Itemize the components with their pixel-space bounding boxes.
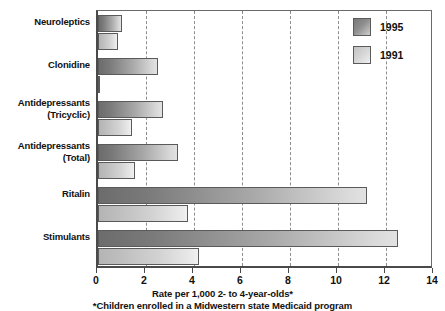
legend-item-1991[interactable]: 1991	[353, 44, 435, 66]
bar-1995[interactable]	[98, 58, 158, 75]
y-axis-label-line: (Total)	[0, 152, 90, 164]
legend-item-1995[interactable]: 1995	[353, 16, 435, 38]
x-axis-tick-mark	[432, 268, 433, 273]
bar-chart: Neuroleptics Clonidine Antidepressants (…	[0, 0, 445, 311]
x-axis-tick-mark	[144, 268, 145, 273]
chart-footnote: *Children enrolled in a Midwestern state…	[0, 300, 445, 311]
bar-1995[interactable]	[98, 144, 178, 161]
bar-1995[interactable]	[98, 230, 398, 247]
y-axis-label-line: (Tricyclic)	[0, 109, 90, 121]
y-axis-label-line: Neuroleptics	[0, 16, 90, 28]
bar-group	[98, 141, 431, 184]
bar-1995[interactable]	[98, 187, 367, 204]
x-axis-tick-label: 8	[273, 274, 303, 286]
y-axis-category-label-ritalin: Ritalin	[0, 188, 90, 200]
bar-1995[interactable]	[98, 15, 122, 32]
legend-swatch-1995-icon	[353, 18, 371, 36]
x-axis-tick-label: 6	[225, 274, 255, 286]
x-axis-tick-label: 4	[177, 274, 207, 286]
y-axis-label-line: Antidepressants	[0, 140, 90, 152]
legend-swatch-1991-icon	[353, 46, 371, 64]
bar-1991[interactable]	[98, 248, 199, 265]
bar-1991[interactable]	[98, 33, 118, 50]
x-axis-tick-label: 10	[321, 274, 351, 286]
x-axis-tick-mark	[336, 268, 337, 273]
x-axis-tick-mark	[240, 268, 241, 273]
x-axis-tick-label: 12	[369, 274, 399, 286]
y-axis-category-label-antidepressants-tricyclic: Antidepressants (Tricyclic)	[0, 97, 90, 120]
y-axis-label-line: Ritalin	[0, 188, 90, 200]
x-axis-title: Rate per 1,000 2- to 4-year-olds*	[0, 288, 445, 299]
bar-group	[98, 184, 431, 227]
x-axis-tick-mark	[288, 268, 289, 273]
bar-1991[interactable]	[98, 162, 135, 179]
y-axis-category-label-antidepressants-total: Antidepressants (Total)	[0, 140, 90, 163]
bar-1995[interactable]	[98, 101, 163, 118]
x-axis-tick-mark	[384, 268, 385, 273]
x-axis-tick-label: 14	[417, 274, 445, 286]
bar-1991[interactable]	[98, 119, 132, 136]
y-axis-label-line: Stimulants	[0, 231, 90, 243]
y-axis-category-label-neuroleptics: Neuroleptics	[0, 16, 90, 28]
x-axis-tick-mark	[96, 268, 97, 273]
bar-1991[interactable]	[98, 76, 100, 93]
x-axis-tick-label: 0	[81, 274, 111, 286]
y-axis-label-line: Clonidine	[0, 59, 90, 71]
legend-label-1991: 1991	[380, 49, 403, 61]
y-axis-category-label-stimulants: Stimulants	[0, 231, 90, 243]
bar-1991[interactable]	[98, 205, 188, 222]
legend-label-1995: 1995	[380, 21, 403, 33]
x-axis-tick-mark	[192, 268, 193, 273]
y-axis-label-line: Antidepressants	[0, 97, 90, 109]
bar-group	[98, 227, 431, 270]
y-axis-category-label-clonidine: Clonidine	[0, 59, 90, 71]
legend: 1995 1991	[353, 16, 435, 72]
bar-group	[98, 98, 431, 141]
x-axis-tick-label: 2	[129, 274, 159, 286]
